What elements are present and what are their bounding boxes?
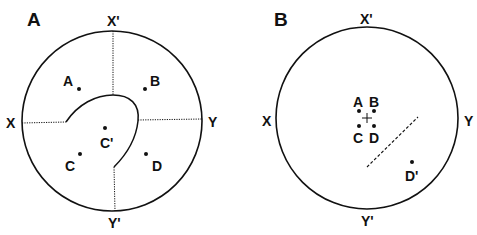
panel-b-axis-bottom-label: Y' <box>361 213 374 229</box>
panel-a-divider-right <box>138 119 203 120</box>
panel-a-point-c-dot <box>78 152 82 156</box>
panel-b-point-d-prime-label: D' <box>405 168 418 184</box>
diagram-canvas: A X' Y' X Y A B C' C D B X' Y' X Y <box>0 0 477 235</box>
panel-b-axis-left-label: X <box>262 113 272 129</box>
panel-a-point-c-label: C <box>65 158 75 174</box>
panel-b-point-a-label: A <box>353 94 363 110</box>
panel-b-label: B <box>274 9 288 30</box>
panel-a-point-a-dot <box>77 87 81 91</box>
panel-b-point-d-label: D <box>369 130 379 146</box>
panel-b: B X' Y' X Y A B C D D' <box>262 9 474 229</box>
panel-a-circle <box>22 31 202 211</box>
panel-a-central-region-boundary <box>66 95 138 167</box>
panel-b-point-b-label: B <box>369 94 379 110</box>
panel-b-axis-right-label: Y <box>464 113 474 129</box>
panel-a-axis-top-label: X' <box>107 13 120 29</box>
panel-a-point-a-label: A <box>63 73 73 89</box>
panel-a-label: A <box>27 9 41 30</box>
panel-a-axis-right-label: Y <box>208 114 218 130</box>
panel-a-divider-bottom <box>114 167 115 211</box>
panel-a-point-b-dot <box>143 87 147 91</box>
panel-b-point-c-label: C <box>353 130 363 146</box>
panel-a: A X' Y' X Y A B C' C D <box>6 9 218 231</box>
panel-a-divider-left <box>22 122 66 123</box>
panel-a-point-c-prime-dot <box>103 126 107 130</box>
panel-a-point-d-label: D <box>152 158 162 174</box>
panel-a-point-b-label: B <box>150 73 160 89</box>
panel-a-axis-bottom-label: Y' <box>108 215 121 231</box>
panel-a-point-c-prime-label: C' <box>100 135 113 151</box>
panel-b-axis-top-label: X' <box>360 11 373 27</box>
panel-b-point-d-prime-dot <box>410 160 414 164</box>
panel-a-point-d-dot <box>144 152 148 156</box>
panel-b-point-c-dot <box>357 124 361 128</box>
panel-a-axis-left-label: X <box>6 115 16 131</box>
panel-b-point-d-dot <box>372 124 376 128</box>
